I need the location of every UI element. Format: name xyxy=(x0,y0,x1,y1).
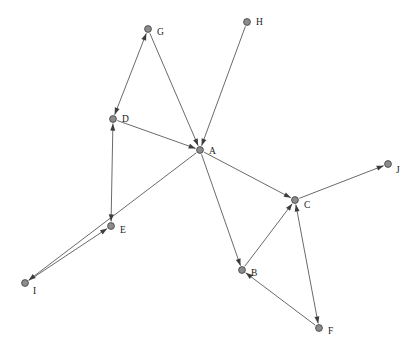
node-marker-a[interactable] xyxy=(197,147,204,154)
arrowhead-into-d xyxy=(110,124,115,131)
node-marker-i[interactable] xyxy=(22,280,29,287)
arrowhead-into-a xyxy=(188,144,195,149)
arrowhead-into-b xyxy=(236,258,241,265)
edge-d-e xyxy=(111,124,113,222)
node-marker-j[interactable] xyxy=(385,161,392,168)
edge-b-c xyxy=(245,204,292,267)
arrowhead-into-j xyxy=(376,166,383,171)
arrowhead-into-a xyxy=(202,138,207,145)
arrowhead-into-a xyxy=(193,138,198,145)
arrowhead-into-c xyxy=(295,205,300,212)
node-marker-g[interactable] xyxy=(145,26,152,33)
edge-d-g xyxy=(115,33,147,114)
node-marker-c[interactable] xyxy=(292,197,299,204)
edge-i-e xyxy=(29,229,107,281)
node-label-b: B xyxy=(251,268,257,278)
edge-c-f xyxy=(296,205,318,324)
edge-f-b xyxy=(246,273,316,325)
node-label-j: J xyxy=(396,165,400,175)
edge-d-a xyxy=(117,121,195,149)
node-label-d: D xyxy=(122,114,129,124)
node-f[interactable]: F xyxy=(316,325,334,337)
node-j[interactable]: J xyxy=(385,161,400,176)
node-c[interactable]: C xyxy=(292,197,311,211)
edge-a-b xyxy=(202,154,241,265)
edge-h-a xyxy=(202,26,246,145)
arrowhead-into-d xyxy=(115,107,120,114)
node-label-g: G xyxy=(157,27,164,37)
graph-diagram: ABCDEFGHIJ xyxy=(0,0,414,352)
edge-g-a xyxy=(150,33,198,146)
edge-c-j xyxy=(299,166,383,199)
node-label-h: H xyxy=(256,17,263,27)
arrowhead-into-c xyxy=(286,204,292,211)
node-a[interactable]: A xyxy=(197,146,216,156)
node-marker-e[interactable] xyxy=(108,223,115,230)
arrowhead-into-i xyxy=(29,274,36,280)
node-label-i: I xyxy=(33,286,36,296)
arrowhead-into-c xyxy=(284,192,291,197)
node-b[interactable]: B xyxy=(239,267,258,279)
edges-layer xyxy=(29,26,384,325)
node-marker-f[interactable] xyxy=(316,325,323,332)
node-label-c: C xyxy=(304,200,310,210)
arrowhead-into-e xyxy=(109,214,114,221)
node-marker-d[interactable] xyxy=(110,116,117,123)
node-g[interactable]: G xyxy=(145,26,164,38)
graph-canvas: ABCDEFGHIJ xyxy=(0,0,414,352)
arrowhead-into-g xyxy=(141,33,146,40)
node-i[interactable]: I xyxy=(22,280,37,297)
node-label-e: E xyxy=(120,225,126,235)
node-label-f: F xyxy=(328,326,333,336)
arrowhead-into-f xyxy=(314,316,319,323)
nodes-layer: ABCDEFGHIJ xyxy=(22,17,400,336)
node-marker-b[interactable] xyxy=(239,267,246,274)
node-h[interactable]: H xyxy=(244,17,263,27)
node-d[interactable]: D xyxy=(110,114,129,124)
arrowheads-layer xyxy=(29,33,384,323)
node-e[interactable]: E xyxy=(108,223,126,236)
arrowhead-into-e xyxy=(100,229,107,235)
edge-a-c xyxy=(204,152,291,198)
node-label-a: A xyxy=(209,146,216,156)
node-marker-h[interactable] xyxy=(244,19,251,26)
